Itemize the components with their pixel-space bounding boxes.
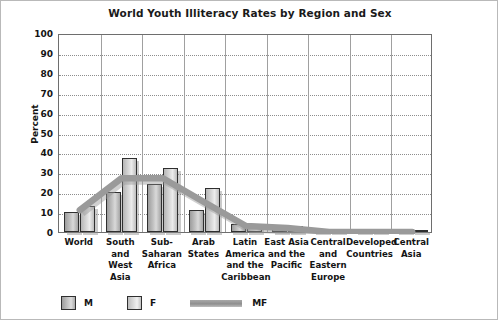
bar-shadow	[358, 232, 373, 234]
category-separator	[142, 35, 143, 232]
x-axis-label: South and West Asia	[97, 237, 145, 283]
bar-f[interactable]	[80, 206, 95, 232]
y-axis-tick-label: 70	[7, 89, 53, 99]
bar-m[interactable]	[106, 192, 121, 232]
plot-area	[58, 34, 432, 233]
category-separator	[267, 35, 268, 232]
bar-m[interactable]	[231, 224, 246, 232]
bar-f[interactable]	[288, 226, 303, 232]
bar-f[interactable]	[247, 226, 262, 232]
y-axis-tick-label: 90	[7, 49, 53, 59]
bar-shadow	[399, 232, 414, 234]
x-axis-category-labels: WorldSouth and West AsiaSub- Saharan Afr…	[58, 237, 432, 295]
legend-item-mf[interactable]: MF	[190, 298, 267, 308]
x-axis-label: Central Asia	[387, 237, 435, 260]
gridline	[59, 95, 431, 96]
x-axis-label: World	[55, 237, 103, 249]
legend-color-swatch	[61, 296, 76, 310]
y-axis-tick-label: 0	[7, 228, 53, 238]
gridline	[59, 115, 431, 116]
bar-f[interactable]	[205, 188, 220, 232]
category-separator	[308, 35, 309, 232]
x-axis-label: Arab States	[180, 237, 228, 260]
bar-m[interactable]	[272, 228, 287, 232]
x-axis-label: East Asia and the Pacific	[263, 237, 311, 272]
y-axis-tick-label: 50	[7, 129, 53, 139]
y-axis-tick-label: 20	[7, 188, 53, 198]
bar-shadow	[316, 232, 331, 234]
legend-item-f[interactable]: F	[127, 296, 156, 310]
bar-f[interactable]	[371, 230, 386, 232]
legend-swatch-shadow	[130, 299, 145, 313]
bar-shadow	[415, 232, 430, 234]
y-axis-tick-label: 40	[7, 148, 53, 158]
bar-shadow	[332, 232, 347, 234]
category-separator	[184, 35, 185, 232]
y-axis-tick-label: 10	[7, 208, 53, 218]
legend-line-swatch	[190, 300, 242, 307]
bar-m[interactable]	[189, 210, 204, 232]
bar-m[interactable]	[64, 212, 79, 232]
x-axis-label: Sub- Saharan Africa	[138, 237, 186, 272]
chart-title: World Youth Illiteracy Rates by Region a…	[1, 7, 498, 19]
bar-m[interactable]	[355, 230, 370, 232]
chart-legend: MFMF	[61, 292, 301, 314]
x-axis-label: Developed Countries	[346, 237, 394, 260]
gridline	[59, 55, 431, 56]
y-axis-tick-label: 60	[7, 109, 53, 119]
gridline	[59, 154, 431, 155]
legend-color-swatch	[127, 296, 142, 310]
bar-m[interactable]	[314, 230, 329, 232]
bar-f[interactable]	[413, 230, 428, 232]
gridline	[59, 135, 431, 136]
bar-m[interactable]	[147, 184, 162, 232]
bar-f[interactable]	[330, 230, 345, 232]
legend-label: M	[84, 298, 93, 308]
gridline	[59, 174, 431, 175]
y-axis-tick-label: 100	[7, 29, 53, 39]
category-separator	[101, 35, 102, 232]
category-separator	[350, 35, 351, 232]
category-separator	[225, 35, 226, 232]
legend-label: MF	[252, 298, 267, 308]
chart-frame: World Youth Illiteracy Rates by Region a…	[0, 0, 498, 320]
legend-label: F	[150, 298, 156, 308]
y-axis-tick-label: 80	[7, 69, 53, 79]
x-axis-label: Latin America and the Caribbean	[221, 237, 269, 283]
legend-swatch-shadow	[64, 299, 79, 313]
bar-m[interactable]	[397, 230, 412, 232]
category-separator	[391, 35, 392, 232]
y-axis-tick-label: 30	[7, 168, 53, 178]
bar-f[interactable]	[122, 158, 137, 232]
legend-item-m[interactable]: M	[61, 296, 93, 310]
bar-shadow	[374, 232, 389, 234]
x-axis-label: Central and Eastern Europe	[304, 237, 352, 283]
gridline	[59, 75, 431, 76]
bar-f[interactable]	[163, 168, 178, 232]
y-axis-tick-labels: 1009080706050403020100	[1, 34, 53, 233]
